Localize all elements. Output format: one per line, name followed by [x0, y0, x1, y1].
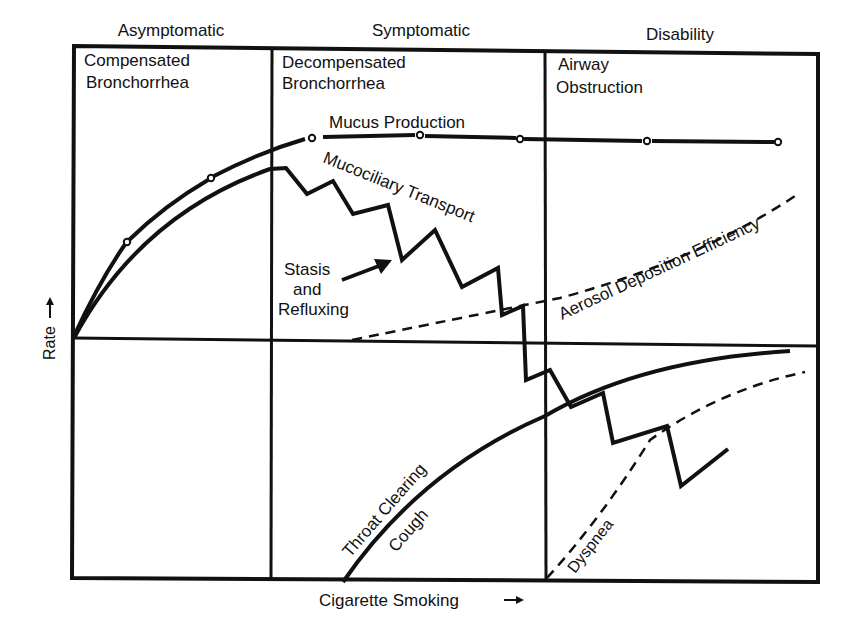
stage-disability-line1: Airway [558, 55, 610, 74]
phase-symptomatic-label: Symptomatic [372, 21, 471, 40]
diagram-canvas: Asymptomatic Symptomatic Disability Comp… [0, 0, 857, 634]
mucus-marker [644, 138, 650, 144]
rate-baseline [73, 338, 818, 346]
mucus-marker [517, 136, 523, 142]
mucus-marker [309, 135, 315, 141]
stage-asymptomatic-line2: Bronchorrhea [86, 73, 190, 92]
divider-symptomatic-disability [545, 50, 546, 582]
stage-symptomatic-line1: Decompensated [282, 53, 406, 72]
mucociliary-transport-curve [74, 168, 728, 486]
mucus-marker [208, 175, 214, 181]
phase-asymptomatic-label: Asymptomatic [118, 21, 225, 40]
stasis-label-line3: Refluxing [278, 300, 349, 319]
stage-asymptomatic-line1: Compensated [84, 51, 190, 70]
mucociliary-transport-label: Mucociliary Transport [321, 148, 478, 226]
stage-symptomatic-line2: Bronchorrhea [282, 74, 386, 93]
stasis-label-line2: and [293, 280, 321, 299]
x-axis-label: Cigarette Smoking [319, 591, 459, 610]
stasis-label-line1: Stasis [284, 260, 330, 279]
y-axis-arrow-icon [46, 297, 54, 318]
x-axis-arrow-icon [504, 596, 524, 604]
mucus-marker [124, 239, 130, 245]
stasis-arrow-icon [342, 259, 392, 280]
mucus-production-label: Mucus Production [329, 113, 465, 132]
aerosol-deposition-label: Aerosol Deposition Efficiency [556, 213, 764, 323]
mucus-production-curve [74, 132, 781, 336]
phase-disability-label: Disability [646, 25, 715, 44]
mucus-marker [417, 132, 423, 138]
mucus-marker [775, 139, 781, 145]
stage-disability-line2: Obstruction [556, 78, 643, 97]
y-axis-label: Rate [41, 326, 58, 360]
divider-asymptomatic-symptomatic [271, 47, 272, 580]
